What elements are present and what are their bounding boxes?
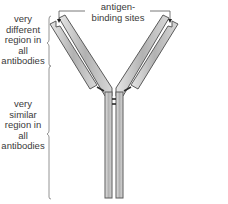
label-line: antigen- [88, 2, 148, 13]
label-line: binding sites [88, 13, 148, 24]
hinge-disulfide-bonds [112, 99, 116, 104]
label-line: region in [0, 35, 46, 46]
label-line: antibodies [0, 56, 46, 67]
constant-region-label: very similar region in all antibodies [0, 99, 46, 152]
right-heavy-chain-arm [116, 15, 169, 96]
variable-region-label: very different region in all antibodies [0, 14, 46, 67]
antigen-binding-sites-label: antigen- binding sites [88, 2, 148, 23]
right-heavy-chain-stem [116, 92, 123, 198]
left-heavy-chain-arm [59, 15, 112, 96]
antibody-diagram: antigen- binding sites very different re… [0, 0, 228, 204]
label-line: region in [0, 120, 46, 131]
label-line: very [0, 14, 46, 25]
left-heavy-chain-stem [105, 92, 112, 198]
label-line: very [0, 99, 46, 110]
constant-region-bracket [47, 66, 51, 199]
label-line: antibodies [0, 141, 46, 152]
